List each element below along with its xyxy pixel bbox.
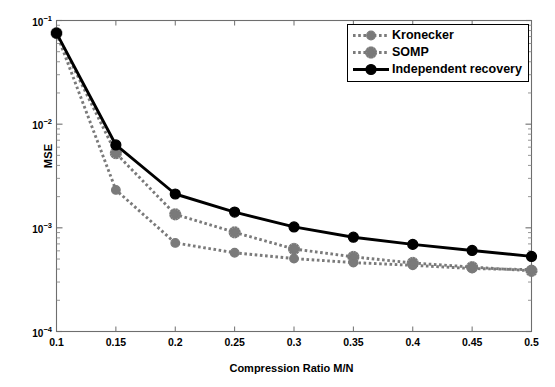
legend-marker-circle-icon — [351, 28, 391, 43]
legend-label: Independent recovery — [391, 62, 522, 77]
y-tick-label: 10−1 — [18, 14, 52, 27]
x-tick-label: 0.3 — [287, 336, 302, 348]
y-tick-label: 10−4 — [18, 325, 52, 338]
x-tick-label: 0.5 — [524, 336, 539, 348]
x-tick-label: 0.35 — [343, 336, 363, 348]
legend-item: Independent recovery — [351, 61, 524, 78]
legend-marker-asterisk-icon — [351, 45, 391, 60]
y-tick-label: 10−2 — [18, 118, 52, 131]
figure: MSE Compression Ratio M/N 0.10.150.20.25… — [0, 0, 555, 387]
legend-item: Kronecker — [351, 27, 524, 44]
legend-marker-circle-icon — [351, 62, 391, 77]
y-tick-label: 10−3 — [18, 221, 52, 234]
x-axis-label-text: Compression Ratio M/N — [201, 362, 353, 374]
legend: KroneckerSOMPIndependent recovery — [347, 24, 529, 82]
y-axis-label: MSE — [42, 96, 54, 216]
x-tick-label: 0.2 — [168, 336, 183, 348]
legend-item: SOMP — [351, 44, 524, 61]
x-tick-label: 0.25 — [224, 336, 244, 348]
x-tick-label: 0.4 — [405, 336, 420, 348]
legend-label: Kronecker — [391, 28, 454, 43]
x-axis-label: Compression Ratio M/N — [0, 362, 555, 374]
legend-label: SOMP — [391, 45, 429, 60]
x-tick-label: 0.45 — [462, 336, 482, 348]
x-tick-label: 0.15 — [106, 336, 126, 348]
